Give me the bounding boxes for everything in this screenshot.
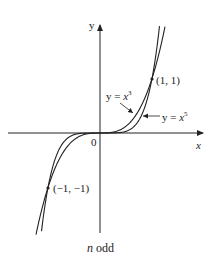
point-1-1-marker <box>150 77 153 80</box>
quintic-label: y = x5 <box>162 111 188 123</box>
point-neg1-neg1-marker <box>46 186 49 189</box>
y-axis-label: y <box>89 20 95 31</box>
origin-label: 0 <box>91 137 97 148</box>
caption: n odd <box>87 242 114 254</box>
cubic-label: y = x3 <box>106 90 132 102</box>
point-neg1-neg1-label: (−1, −1) <box>53 183 89 194</box>
point-1-1-label: (1, 1) <box>156 75 180 86</box>
power-function-graph: y x 0 y = x3 y = x5 (1, 1) (−1, −1) n od… <box>0 0 216 267</box>
cubic-label-pointer <box>120 103 133 113</box>
x-axis-label: x <box>196 140 201 151</box>
graph-canvas <box>0 0 216 267</box>
